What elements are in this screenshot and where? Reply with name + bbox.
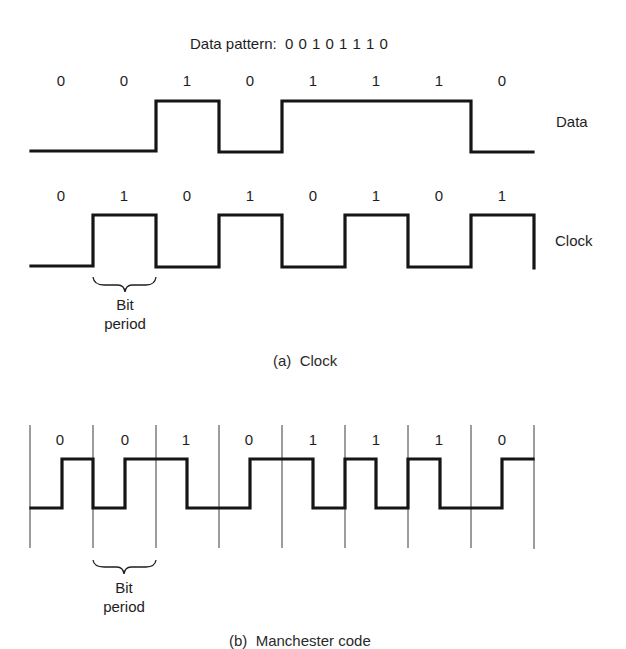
data-bit-label: 0 [51, 72, 71, 89]
manchester-bit-label: 0 [50, 431, 70, 448]
data-pattern-prefix: Data pattern: [190, 35, 277, 52]
clock-bit-label: 0 [429, 187, 449, 204]
clock-bit-label: 1 [240, 187, 260, 204]
clock-bit-label: 0 [51, 187, 71, 204]
bit-period-line1: Bit [89, 578, 159, 597]
data-pattern-title: Data pattern: 0 0 1 0 1 1 1 0 [190, 35, 388, 52]
data-bit-label: 1 [366, 72, 386, 89]
data-waveform [31, 101, 533, 152]
clock-row-label: Clock [555, 232, 593, 249]
data-row-label: Data [556, 113, 588, 130]
manchester-bit-label: 1 [303, 431, 323, 448]
clock-bit-label: 1 [114, 187, 134, 204]
bit-period-line1: Bit [90, 295, 160, 314]
bit-period-label-b: Bit period [89, 578, 159, 616]
manchester-bit-label: 0 [115, 431, 135, 448]
manchester-bit-label: 0 [239, 431, 259, 448]
manchester-bit-label: 0 [492, 431, 512, 448]
manchester-bit-label: 1 [429, 431, 449, 448]
data-bit-label: 0 [492, 72, 512, 89]
bit-period-line2: period [89, 597, 159, 616]
data-bit-label: 1 [429, 72, 449, 89]
bit-period-label-a: Bit period [90, 295, 160, 333]
clock-bit-label: 0 [177, 187, 197, 204]
caption-b: (b) Manchester code [229, 632, 371, 649]
bit-period-line2: period [90, 314, 160, 333]
data-bit-label: 0 [240, 72, 260, 89]
manchester-bit-label: 1 [176, 431, 196, 448]
clock-bit-label: 1 [366, 187, 386, 204]
data-bit-label: 0 [114, 72, 134, 89]
manchester-bit-boundaries [30, 425, 534, 549]
clock-waveform [31, 215, 534, 268]
data-bit-label: 1 [303, 72, 323, 89]
manchester-bit-label: 1 [366, 431, 386, 448]
bit-period-brace-b [93, 560, 156, 574]
clock-bit-label: 1 [492, 187, 512, 204]
caption-a: (a) Clock [273, 352, 337, 369]
clock-bit-label: 0 [303, 187, 323, 204]
data-bit-label: 1 [177, 72, 197, 89]
bit-period-brace-a [93, 277, 156, 292]
data-pattern-value: 0 0 1 0 1 1 1 0 [285, 35, 388, 52]
